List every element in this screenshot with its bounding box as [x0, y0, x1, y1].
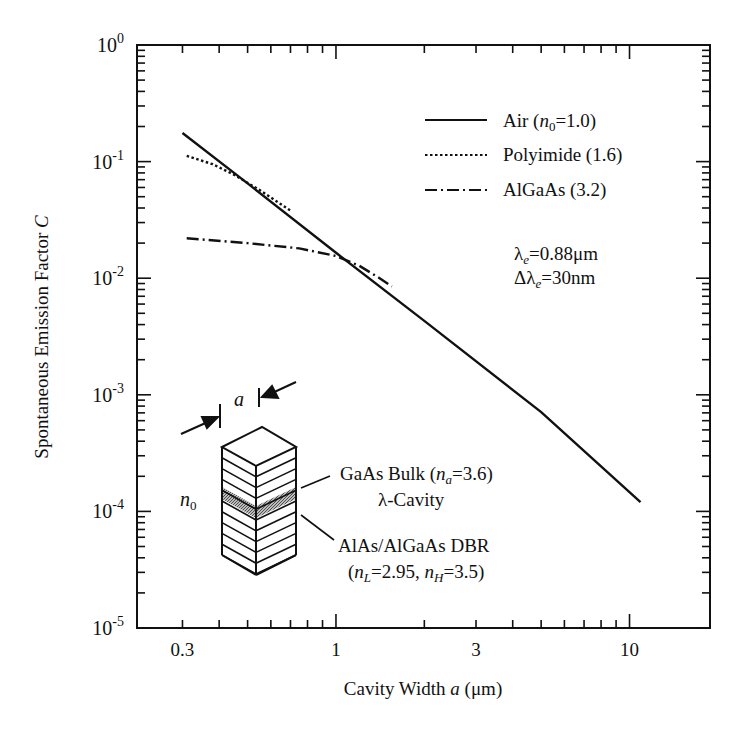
y-axis-tick-labels: 10010-110-210-310-410-5: [92, 31, 124, 639]
linewidth-label: Δλe=30nm: [514, 267, 595, 291]
legend-label-air: Air (n0=1.0): [503, 110, 596, 134]
y-tick-label: 10-5: [92, 614, 124, 639]
x-axis-label: Cavity Width a (μm): [344, 678, 502, 700]
chart-canvas: 10010-110-210-310-410-5 0.31310 Spontane…: [0, 0, 749, 743]
y-tick-label: 10-2: [92, 264, 124, 289]
y-axis-label: Spontaneous Emission Factor C: [31, 215, 52, 459]
inset-n0-label: n0: [180, 488, 197, 513]
series-line-algaas: [187, 238, 392, 286]
dbr-index-label: (nL=2.95, nH=3.5): [348, 561, 484, 585]
inset-width-label: a: [234, 388, 244, 410]
x-tick-label: 1: [331, 639, 341, 660]
y-tick-label: 10-4: [92, 497, 124, 522]
dbr-label: AlAs/AlGaAs DBR: [338, 535, 490, 556]
legend: Air (n0=1.0) Polyimide (1.6) AlGaAs (3.2…: [425, 110, 622, 201]
x-axis-tick-labels: 0.31310: [171, 639, 639, 660]
y-tick-label: 10-1: [92, 148, 124, 173]
gaas-bulk-label: GaAs Bulk (na=3.6): [340, 463, 493, 487]
lambda-cavity-label: λ-Cavity: [378, 489, 445, 510]
x-tick-label: 0.3: [171, 639, 195, 660]
cavity-structure-inset: [181, 382, 334, 575]
x-tick-label: 10: [620, 639, 639, 660]
y-tick-label: 10-3: [92, 381, 124, 406]
legend-label-algaas: AlGaAs (3.2): [503, 179, 606, 201]
legend-label-polyimide: Polyimide (1.6): [503, 144, 622, 166]
series-line-polyimide: [187, 156, 291, 211]
y-tick-label: 100: [97, 31, 124, 56]
x-tick-label: 3: [471, 639, 481, 660]
emission-wavelength-label: λe=0.88μm: [514, 243, 598, 267]
